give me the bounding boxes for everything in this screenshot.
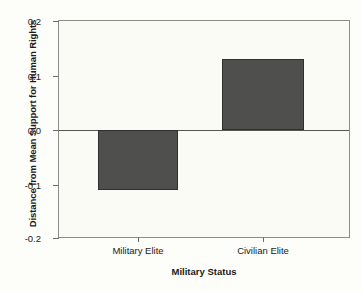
y-tick-label: 0.2: [0, 16, 41, 27]
x-axis-title: Military Status: [58, 266, 350, 277]
y-tick-label: 0.1: [0, 70, 41, 81]
x-tick-mark: [263, 237, 264, 242]
bar-military-elite[interactable]: [98, 130, 178, 190]
plot-area: 0.2 0.1 0.0 -0.1 -0.2 Military Elite Civ…: [58, 20, 350, 238]
y-axis-title: Distance from Mean Support for Human Rig…: [27, 6, 38, 242]
y-tick-label: 0.0: [0, 125, 41, 136]
x-tick-label-civilian-elite: Civilian Elite: [193, 245, 333, 256]
y-tick-mark: [53, 185, 59, 186]
x-tick-label-military-elite: Military Elite: [68, 245, 208, 256]
y-tick-mark: [53, 76, 59, 77]
y-tick-mark: [53, 238, 59, 239]
x-tick-mark: [138, 237, 139, 242]
bar-civilian-elite[interactable]: [222, 59, 304, 130]
y-tick-label: -0.2: [0, 233, 41, 244]
y-tick-label: -0.1: [0, 179, 41, 190]
bar-chart-figure: Distance from Mean Support for Human Rig…: [0, 0, 362, 292]
y-tick-mark: [53, 21, 59, 22]
